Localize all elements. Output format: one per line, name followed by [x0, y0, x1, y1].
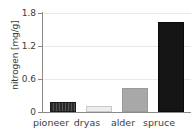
y-tick-mark-2	[38, 46, 42, 47]
bar-spruce	[158, 22, 184, 112]
y-tick-label-1: 0.6	[6, 75, 36, 84]
y-axis-title: nitrogen [mg/g]	[10, 7, 20, 103]
y-tick-label-2: 1.2	[6, 42, 36, 51]
bar-dryas	[86, 106, 112, 112]
bar-alder	[122, 88, 148, 112]
plot-area	[43, 13, 191, 112]
bar-pioneer	[50, 102, 76, 112]
x-tick-label-spruce: spruce	[137, 117, 181, 128]
bar-chart-figure: nitrogen [mg/g] 0 0.6 1.2 1.8 pioneer dr…	[0, 0, 193, 137]
y-tick-label-3: 1.8	[6, 9, 36, 18]
gridline-1.8	[43, 13, 191, 14]
y-tick-mark-1	[38, 79, 42, 80]
y-tick-label-0: 0	[6, 108, 36, 117]
y-tick-mark-0	[38, 112, 42, 113]
x-axis-spine	[42, 112, 191, 113]
y-tick-mark-3	[38, 13, 42, 14]
